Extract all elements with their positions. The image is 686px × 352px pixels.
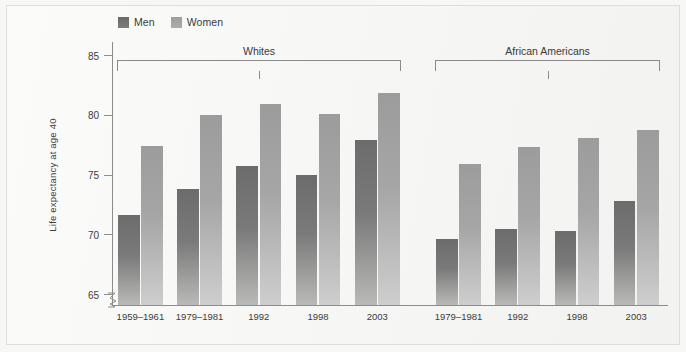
chart-screenshot: Men Women Life expectancy at age 40 8580… xyxy=(0,0,686,352)
bar-men-5 xyxy=(436,239,458,305)
chart-legend: Men Women xyxy=(118,16,223,28)
bar-men-4 xyxy=(355,140,377,305)
men-swatch-icon xyxy=(118,17,129,28)
legend-item-women: Women xyxy=(171,16,224,28)
group-label-1: African Americans xyxy=(505,45,590,57)
x-tick-label-7: 1998 xyxy=(566,311,587,322)
bar-men-1 xyxy=(177,189,199,305)
group-bracket-tick-1 xyxy=(548,71,549,79)
y-tick-label-65: 65 xyxy=(88,289,104,300)
x-tick-label-2: 1992 xyxy=(248,311,269,322)
bar-women-4 xyxy=(378,93,400,305)
y-tick-75: 75 xyxy=(104,175,112,176)
bar-women-3 xyxy=(319,114,341,305)
bar-men-2 xyxy=(236,166,258,305)
x-tick-label-1: 1979–1981 xyxy=(176,311,224,322)
bar-women-7 xyxy=(578,138,600,305)
women-swatch-icon xyxy=(171,17,182,28)
group-bracket-1: African Americans xyxy=(435,60,660,71)
bar-women-1 xyxy=(200,115,222,305)
x-tick-label-3: 1998 xyxy=(307,311,328,322)
y-tick-label-80: 80 xyxy=(88,110,104,121)
x-tick-label-0: 1959–1961 xyxy=(117,311,165,322)
y-tick-70: 70 xyxy=(104,234,112,235)
bar-women-6 xyxy=(518,147,540,305)
y-tick-label-70: 70 xyxy=(88,229,104,240)
bar-women-5 xyxy=(459,164,481,305)
bar-men-3 xyxy=(296,175,318,305)
x-axis-line xyxy=(112,305,668,306)
y-tick-label-75: 75 xyxy=(88,170,104,181)
y-tick-80: 80 xyxy=(104,115,112,116)
bar-men-7 xyxy=(555,231,577,305)
legend-label-women: Women xyxy=(187,16,224,28)
bar-men-0 xyxy=(118,215,140,305)
group-bracket-tick-0 xyxy=(259,71,260,79)
legend-label-men: Men xyxy=(134,16,155,28)
y-tick-85: 85 xyxy=(104,55,112,56)
x-tick-label-4: 2003 xyxy=(367,311,388,322)
bar-men-6 xyxy=(495,229,517,306)
y-axis-title: Life expectancy at age 40 xyxy=(47,118,58,231)
x-tick-label-6: 1992 xyxy=(507,311,528,322)
bar-men-8 xyxy=(614,201,636,305)
bar-women-0 xyxy=(141,146,163,305)
group-bracket-0: Whites xyxy=(117,60,401,71)
plot-area xyxy=(113,42,668,305)
x-tick-label-8: 2003 xyxy=(626,311,647,322)
group-label-0: Whites xyxy=(243,45,275,57)
legend-item-men: Men xyxy=(118,16,155,28)
y-tick-label-85: 85 xyxy=(88,50,104,61)
bar-women-2 xyxy=(260,104,282,305)
bar-women-8 xyxy=(637,130,659,305)
x-tick-label-5: 1979–1981 xyxy=(435,311,483,322)
